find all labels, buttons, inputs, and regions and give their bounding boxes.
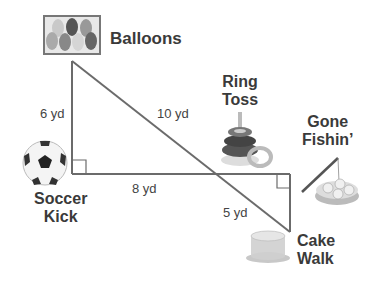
gone-fishin-icon [302,158,359,205]
soccer-ball-icon [23,141,67,185]
balloons-label: Balloons [110,30,182,48]
measure-5yd: 5 yd [223,205,248,220]
cake-walk-line2: Walk [297,250,335,268]
cake-icon [246,231,290,263]
cake-walk-label: Cake Walk [297,232,335,268]
gone-fishin-line2: Fishin’ [302,131,354,149]
ring-toss-icon [221,112,271,166]
cake-walk-line1: Cake [297,232,335,250]
measure-10yd: 10 yd [157,106,189,121]
ring-toss-label: Ring Toss [222,73,258,109]
measure-8yd: 8 yd [132,181,157,196]
soccer-kick-line1: Soccer [34,190,87,208]
gone-fishin-label: Gone Fishin’ [302,113,354,149]
ring-toss-line2: Toss [222,91,258,109]
ring-toss-line1: Ring [222,73,258,91]
gone-fishin-line1: Gone [302,113,354,131]
soccer-kick-label: Soccer Kick [34,190,87,226]
balloons-icon [44,16,100,54]
soccer-kick-line2: Kick [34,208,87,226]
measure-6yd: 6 yd [40,106,65,121]
